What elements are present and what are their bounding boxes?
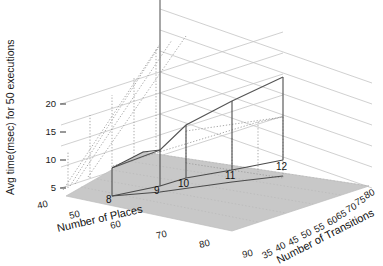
point-label: 8 xyxy=(106,194,112,205)
surface-plot-3d: 5 10 15 20 Avg time(msec) for 50 executi… xyxy=(0,0,383,266)
point-label: 10 xyxy=(178,178,190,189)
chart-container: 5 10 15 20 Avg time(msec) for 50 executi… xyxy=(0,0,383,266)
point-label: 9 xyxy=(154,185,160,196)
y-tick-label: 5 xyxy=(51,182,56,193)
y-axis-label: Avg time(msec) for 50 executions xyxy=(4,39,16,195)
point-label: 11 xyxy=(225,170,236,181)
point-label: 12 xyxy=(276,161,288,172)
y-tick-label: 10 xyxy=(45,154,56,165)
y-tick-label: 15 xyxy=(45,126,56,137)
y-tick-label: 20 xyxy=(45,98,56,109)
